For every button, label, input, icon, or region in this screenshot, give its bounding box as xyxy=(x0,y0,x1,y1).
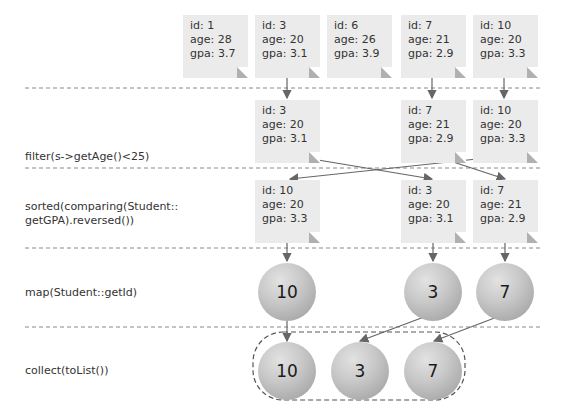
student-age: age: 21 xyxy=(480,198,538,212)
student-card-source: id: 7 age: 21 gpa: 2.9 xyxy=(401,15,466,78)
student-id: id: 1 xyxy=(190,19,248,33)
student-age: age: 20 xyxy=(262,198,320,212)
student-card-source: id: 6 age: 26 gpa: 3.9 xyxy=(327,15,392,78)
student-card-source: id: 10 age: 20 gpa: 3.3 xyxy=(473,15,538,78)
student-card-sorted: id: 3 age: 20 gpa: 3.1 xyxy=(401,180,466,243)
collected-id-sphere: 10 xyxy=(258,342,316,400)
collected-id-sphere: 3 xyxy=(331,342,389,400)
student-gpa: gpa: 2.9 xyxy=(408,132,466,146)
mapped-id-sphere: 7 xyxy=(476,263,534,321)
student-id: id: 3 xyxy=(262,104,320,118)
mapped-id-sphere: 3 xyxy=(404,263,462,321)
student-id: id: 10 xyxy=(262,184,320,198)
student-card-source: id: 1 age: 28 gpa: 3.7 xyxy=(183,15,248,78)
student-gpa: gpa: 3.3 xyxy=(480,47,538,61)
student-id: id: 3 xyxy=(262,19,320,33)
student-card-sorted: id: 7 age: 21 gpa: 2.9 xyxy=(473,180,538,243)
student-id: id: 6 xyxy=(334,19,392,33)
student-id: id: 10 xyxy=(480,104,538,118)
student-age: age: 20 xyxy=(262,118,320,132)
student-gpa: gpa: 3.9 xyxy=(334,47,392,61)
student-id: id: 7 xyxy=(480,184,538,198)
student-card-sorted: id: 10 age: 20 gpa: 3.3 xyxy=(255,180,320,243)
student-age: age: 20 xyxy=(408,198,466,212)
student-card-filtered: id: 10 age: 20 gpa: 3.3 xyxy=(473,100,538,163)
student-card-filtered: id: 7 age: 21 gpa: 2.9 xyxy=(401,100,466,163)
student-gpa: gpa: 2.9 xyxy=(480,212,538,226)
student-gpa: gpa: 3.7 xyxy=(190,47,248,61)
student-age: age: 28 xyxy=(190,33,248,47)
student-gpa: gpa: 3.1 xyxy=(262,47,320,61)
student-age: age: 20 xyxy=(480,33,538,47)
student-age: age: 20 xyxy=(262,33,320,47)
student-id: id: 3 xyxy=(408,184,466,198)
student-card-source: id: 3 age: 20 gpa: 3.1 xyxy=(255,15,320,78)
student-gpa: gpa: 3.3 xyxy=(480,132,538,146)
student-id: id: 7 xyxy=(408,104,466,118)
student-age: age: 21 xyxy=(408,118,466,132)
student-gpa: gpa: 3.1 xyxy=(262,132,320,146)
student-gpa: gpa: 3.1 xyxy=(408,212,466,226)
student-card-filtered: id: 3 age: 20 gpa: 3.1 xyxy=(255,100,320,163)
mapped-id-sphere: 10 xyxy=(258,263,316,321)
student-age: age: 21 xyxy=(408,33,466,47)
student-gpa: gpa: 2.9 xyxy=(408,47,466,61)
collected-id-sphere: 7 xyxy=(404,342,462,400)
student-id: id: 7 xyxy=(408,19,466,33)
student-age: age: 26 xyxy=(334,33,392,47)
student-age: age: 20 xyxy=(480,118,538,132)
student-id: id: 10 xyxy=(480,19,538,33)
student-gpa: gpa: 3.3 xyxy=(262,212,320,226)
